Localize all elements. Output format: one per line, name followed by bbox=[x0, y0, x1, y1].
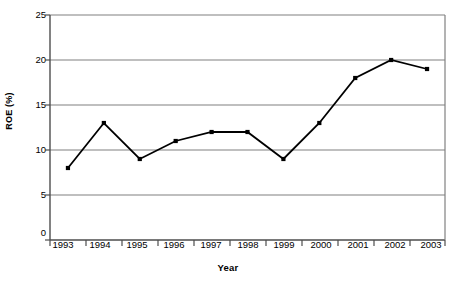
data-point-2001 bbox=[353, 76, 357, 80]
data-point-1994 bbox=[102, 121, 106, 125]
data-point-1997 bbox=[209, 130, 213, 134]
data-point-1993 bbox=[66, 166, 70, 170]
roe-series-line bbox=[68, 60, 427, 168]
data-point-1996 bbox=[174, 139, 178, 143]
plot-area bbox=[0, 0, 456, 283]
data-point-2000 bbox=[317, 121, 321, 125]
data-point-1998 bbox=[245, 130, 249, 134]
data-point-2002 bbox=[389, 58, 393, 62]
data-point-1999 bbox=[281, 157, 285, 161]
roe-series-markers bbox=[66, 58, 429, 170]
data-point-2003 bbox=[425, 67, 429, 71]
chart-figure: ROE (%) Year 25 20 15 10 5 0 1993 1994 1… bbox=[0, 0, 456, 283]
data-point-1995 bbox=[138, 157, 142, 161]
